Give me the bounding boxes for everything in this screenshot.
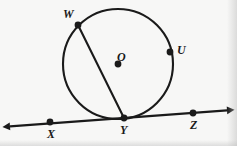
label-X: X [47,128,55,140]
diagram-canvas [0,0,237,146]
point-U [167,49,174,56]
label-W: W [63,8,74,20]
chord-WY [78,25,124,118]
label-Z: Z [190,119,197,131]
point-Z [190,110,197,117]
point-W [75,22,82,29]
label-U: U [177,44,186,56]
label-Y: Y [120,124,127,136]
label-O: O [117,51,126,63]
point-X [47,119,54,126]
geometry-figure: W U O X Y Z [0,0,237,146]
point-Y [121,115,128,122]
